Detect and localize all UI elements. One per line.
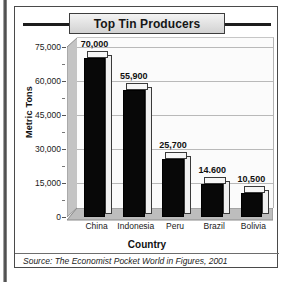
chart-title-band: Top Tin Producers [15,13,279,35]
bar-side-face [105,55,112,214]
bar-value-label: 14.600 [198,165,226,175]
y-tick-mark [62,217,66,218]
bar-front-face [201,184,223,217]
page-gutter-shadow [3,0,7,282]
bar-front-face [241,193,263,217]
x-axis-title: Country [15,239,279,250]
bar-front-face [84,58,106,217]
y-minor-tick-mark [62,98,65,99]
x-category-label: Bolivia [241,221,266,231]
y-tick-label: 75,000 [17,42,61,52]
bar-column: 25,700 [162,149,184,217]
y-minor-tick-mark [62,132,65,133]
chart-body: 70,00055,90025,70014.60010,500 [67,37,273,237]
bar-value-label: 25,700 [159,140,187,150]
bar-value-label: 10,500 [238,174,266,184]
x-category-label: Brazil [204,221,225,231]
chart-title: Top Tin Producers [94,17,201,31]
bar-column: 14.600 [201,174,223,217]
bar-top-face [126,83,148,90]
bar-top-face [204,177,226,184]
bar-top-face [244,186,266,193]
y-tick-label: 15,000 [17,178,61,188]
y-tick-mark [62,81,66,82]
bar-top-face [165,152,187,159]
bar-column: 70,000 [84,48,106,217]
y-tick-mark [62,149,66,150]
chart-title-box: Top Tin Producers [69,13,225,34]
bar-side-face [184,156,191,214]
bar-top-face [87,51,109,58]
y-tick-label: 45,000 [17,110,61,120]
bar-front-face [162,159,184,217]
bar-column: 10,500 [241,183,263,217]
x-category-label: China [85,221,107,231]
x-category-label: Indonesia [117,221,154,231]
source-divider [15,253,279,254]
bar-side-face [145,87,152,214]
y-tick-mark [62,47,66,48]
y-minor-tick-mark [62,166,65,167]
y-tick-mark [62,115,66,116]
source-caption: Source: The Economist Pocket World in Fi… [23,256,228,266]
bar-front-face [123,90,145,217]
bar-side-face [262,190,269,214]
bar-side-face [223,181,230,214]
x-axis-categories: ChinaIndonesiaPeruBrazilBolivia [67,221,273,235]
x-category-label: Peru [166,221,184,231]
bar-value-label: 55,900 [120,71,148,81]
y-tick-label: 0 [17,212,61,222]
plot-area: Metric Tons 015,00030,00045,00060,00075,… [15,37,279,237]
bar-column: 55,900 [123,80,145,217]
y-axis-ticks: 015,00030,00045,00060,00075,000 [15,37,61,237]
y-tick-mark [62,183,66,184]
y-tick-label: 30,000 [17,144,61,154]
y-minor-tick-mark [62,64,65,65]
y-minor-tick-mark [62,200,65,201]
figure-frame: Top Tin Producers Metric Tons 015,00030,… [14,6,278,268]
y-tick-label: 60,000 [17,76,61,86]
bar-value-label: 70,000 [81,39,109,49]
